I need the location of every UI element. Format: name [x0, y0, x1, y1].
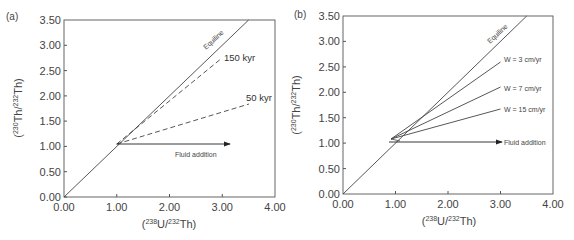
x-axis-label: (238U/232Th)	[142, 218, 197, 230]
y-tick: 1.50	[319, 112, 340, 124]
x-axis-label: (238U/232Th)	[422, 215, 477, 227]
equiline	[343, 16, 527, 194]
equiline-label: Equiline	[202, 29, 226, 52]
y-tick: 1.00	[40, 140, 61, 152]
panel-b: (b) 0.00 0.50 1.00 1.50 2.00 2.50 3.00 3…	[290, 9, 564, 227]
curve-150kyr	[117, 58, 222, 144]
equiline	[64, 20, 249, 197]
y-tick: 2.00	[319, 86, 340, 98]
x-tick: 0.00	[53, 201, 74, 213]
x-tick: 1.00	[106, 201, 127, 213]
x-tick: 2.00	[437, 198, 458, 210]
fluid-addition-label: Fluid addition	[504, 139, 546, 146]
y-axis: 0.00 0.50 1.00 1.50 2.00 2.50 3.00 3.50	[319, 10, 346, 200]
y-tick: 3.50	[40, 14, 61, 26]
curve-50kyr	[117, 104, 249, 144]
curve-w15	[391, 109, 501, 139]
x-tick: 4.00	[542, 198, 563, 210]
x-tick: 1.00	[385, 198, 406, 210]
y-tick: 3.50	[319, 10, 340, 22]
panel-a-label: (a)	[6, 11, 18, 22]
x-tick: 0.00	[332, 198, 353, 210]
x-tick: 4.00	[264, 201, 285, 213]
curve-w3	[391, 62, 501, 139]
curve-50kyr-label: 50 kyr	[246, 92, 272, 103]
y-axis: 0.00 0.50 1.00 1.50 2.00 2.50 3.00 3.50	[40, 14, 67, 203]
panel-b-label: (b)	[294, 9, 306, 20]
y-tick: 0.50	[319, 163, 340, 175]
curve-w7-label: W = 7 cm/yr	[504, 85, 542, 93]
y-tick: 1.00	[319, 137, 340, 149]
y-tick: 2.50	[40, 65, 61, 77]
x-tick: 2.00	[159, 201, 180, 213]
panel-a: (a) 0.00 0.50 1.00 1.50 2.00 2.50 3.00 3…	[6, 11, 286, 230]
curve-150kyr-label: 150 kyr	[224, 52, 255, 63]
y-tick: 3.00	[40, 39, 61, 51]
fluid-addition-label: Fluid addition	[175, 151, 217, 158]
x-tick: 3.00	[490, 198, 511, 210]
y-axis-label: (230Th/232Th)	[12, 78, 24, 137]
equiline-label: Equiline	[486, 23, 510, 46]
y-tick: 3.00	[319, 35, 340, 47]
curve-w3-label: W = 3 cm/yr	[504, 56, 542, 64]
y-tick: 1.50	[40, 115, 61, 127]
y-tick: 0.50	[40, 166, 61, 178]
plot-frame	[343, 16, 553, 194]
y-tick: 2.50	[319, 61, 340, 73]
curve-w15-label: W = 15 cm/yr	[504, 106, 546, 114]
y-axis-label: (230Th/232Th)	[290, 75, 302, 134]
y-tick: 2.00	[40, 90, 61, 102]
x-tick: 3.00	[212, 201, 233, 213]
figure: (a) 0.00 0.50 1.00 1.50 2.00 2.50 3.00 3…	[0, 0, 574, 240]
plot-frame	[64, 20, 275, 197]
